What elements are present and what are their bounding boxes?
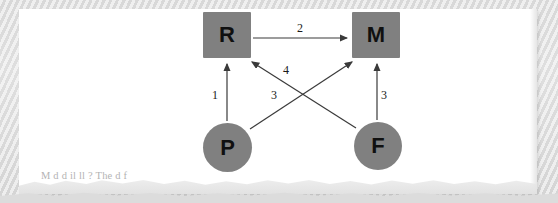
torn-bottom-edge: M d d il ll ? The d f: [19, 164, 537, 194]
edge-label-1: 1: [212, 89, 218, 101]
edge-label-4: 4: [283, 64, 289, 76]
node-f-label: F: [371, 135, 384, 157]
edge-label-3-vertical: 3: [381, 89, 387, 101]
edge-label-3-diagonal: 3: [271, 89, 277, 101]
node-p-label: P: [220, 137, 235, 159]
scanned-page: R M P F 2 1 3 4 3 M d d il ll ? The: [0, 0, 558, 203]
node-r[interactable]: R: [203, 12, 251, 58]
node-f[interactable]: F: [354, 122, 402, 170]
faded-body-text: M d d il ll ? The d f: [41, 170, 531, 181]
node-r-label: R: [219, 24, 235, 46]
edge-label-2: 2: [297, 22, 303, 34]
edge-p-to-m: [250, 62, 352, 129]
node-m-label: M: [367, 24, 385, 46]
node-m[interactable]: M: [352, 12, 400, 58]
